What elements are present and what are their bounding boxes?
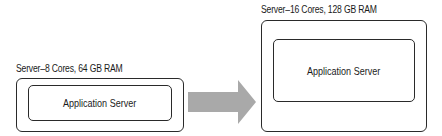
left-application-server-box: Application Server	[28, 85, 172, 121]
right-server-label: Server–16 Cores, 128 GB RAM	[261, 4, 377, 15]
scale-up-arrow-icon	[186, 76, 258, 128]
left-server-label: Server–8 Cores, 64 GB RAM	[16, 63, 123, 74]
right-application-server-label: Application Server	[307, 65, 380, 77]
left-application-server-label: Application Server	[63, 97, 136, 109]
right-application-server-box: Application Server	[273, 39, 415, 102]
